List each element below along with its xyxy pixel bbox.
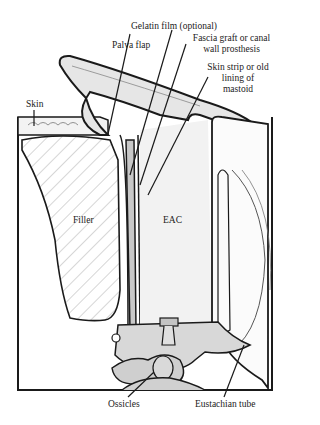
label-skin-strip: Skin strip or old lining of mastoid xyxy=(198,62,278,95)
label-gelatin-film: Gelatin film (optional) xyxy=(131,21,217,32)
label-fascia-graft-line1: Fascia graft or canal xyxy=(184,33,279,44)
label-palva-flap: Palva flap xyxy=(112,40,150,51)
label-fascia-graft-line2: wall prosthesis xyxy=(184,44,279,55)
filler-region xyxy=(22,136,120,321)
label-ossicles: Ossicles xyxy=(108,399,140,410)
label-skin-strip-line1: Skin strip or old xyxy=(198,62,278,73)
label-fascia-graft: Fascia graft or canal wall prosthesis xyxy=(184,33,279,55)
label-filler: Filler xyxy=(73,215,94,226)
label-eustachian-tube: Eustachian tube xyxy=(195,399,255,410)
label-skin-strip-line2: lining of xyxy=(198,73,278,84)
label-eac: EAC xyxy=(163,215,182,226)
label-skin: Skin xyxy=(26,99,43,110)
label-skin-strip-line3: mastoid xyxy=(198,84,278,95)
stapes xyxy=(160,318,178,326)
